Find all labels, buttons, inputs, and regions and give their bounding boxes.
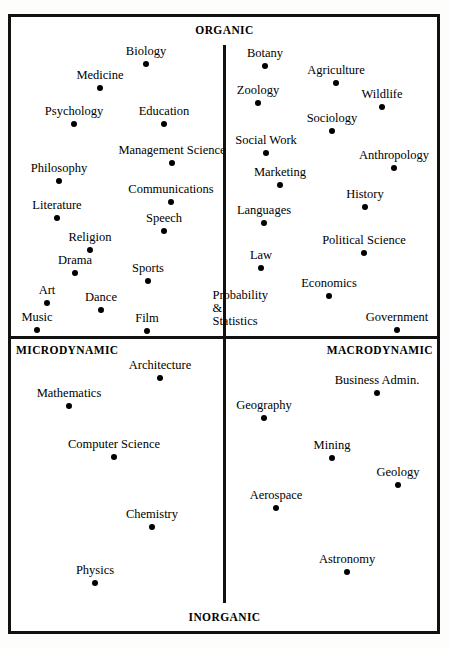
data-point-marker <box>98 307 104 313</box>
data-point-marker <box>145 278 151 284</box>
data-point-label: Law <box>250 249 272 262</box>
axis-pole-label-microdynamic: MICRODYNAMIC <box>16 344 119 356</box>
data-point-marker <box>44 300 50 306</box>
data-point-label: Agriculture <box>307 64 365 77</box>
data-point-label: Philosophy <box>31 162 87 175</box>
data-point-label: Astronomy <box>319 553 375 566</box>
data-point-label: Biology <box>126 45 166 58</box>
data-point-marker <box>262 63 268 69</box>
data-point-marker <box>333 80 339 86</box>
axis-pole-label-organic: ORGANIC <box>0 24 449 36</box>
data-point-marker <box>277 182 283 188</box>
data-point-marker <box>54 215 60 221</box>
data-point-label: Probability & Statistics <box>212 289 268 328</box>
data-point-marker <box>329 128 335 134</box>
data-point-marker <box>374 390 380 396</box>
data-point-label: Chemistry <box>126 508 178 521</box>
data-point-marker <box>255 100 261 106</box>
data-point-marker <box>326 293 332 299</box>
data-point-label: Architecture <box>129 359 191 372</box>
data-point-label: Medicine <box>76 69 123 82</box>
data-point-label: Languages <box>237 204 291 217</box>
data-point-label: Anthropology <box>359 149 429 162</box>
data-point-label: Physics <box>76 564 114 577</box>
data-point-marker <box>361 250 367 256</box>
data-point-label: Zoology <box>237 84 279 97</box>
data-point-label: Computer Science <box>68 438 160 451</box>
data-point-label: Social Work <box>235 134 297 147</box>
data-point-label: History <box>346 188 384 201</box>
data-point-marker <box>261 220 267 226</box>
data-point-label: Sociology <box>307 112 358 125</box>
data-point-label: Geology <box>376 466 419 479</box>
data-point-marker <box>143 61 149 67</box>
data-point-label: Wildlife <box>361 88 402 101</box>
data-point-marker <box>161 228 167 234</box>
data-point-marker <box>329 455 335 461</box>
data-point-label: Art <box>39 284 56 297</box>
data-point-marker <box>157 375 163 381</box>
data-point-marker <box>34 327 40 333</box>
data-point-marker <box>258 265 264 271</box>
data-point-marker <box>161 121 167 127</box>
data-point-marker <box>261 415 267 421</box>
data-point-marker <box>56 178 62 184</box>
data-point-marker <box>149 524 155 530</box>
data-point-label: Sports <box>132 262 164 275</box>
data-point-marker <box>379 104 385 110</box>
data-point-marker <box>144 328 150 334</box>
data-point-label: Music <box>21 311 52 324</box>
data-point-label: Religion <box>68 231 111 244</box>
data-point-marker <box>71 121 77 127</box>
data-point-label: Mathematics <box>37 387 102 400</box>
data-point-marker <box>391 165 397 171</box>
data-point-marker <box>111 454 117 460</box>
data-point-label: Speech <box>146 212 182 225</box>
data-point-marker <box>395 482 401 488</box>
data-point-label: Botany <box>247 47 283 60</box>
data-point-label: Mining <box>314 439 351 452</box>
discipline-quadrant-chart: ORGANIC INORGANIC MICRODYNAMIC MACRODYNA… <box>0 0 449 648</box>
axis-pole-label-macrodynamic: MACRODYNAMIC <box>327 344 433 356</box>
data-point-marker <box>168 199 174 205</box>
data-point-label: Economics <box>301 277 357 290</box>
data-point-label: Marketing <box>254 166 306 179</box>
data-point-marker <box>394 327 400 333</box>
data-point-label: Management Science <box>118 144 225 157</box>
data-point-marker <box>273 505 279 511</box>
data-point-label: Education <box>139 105 190 118</box>
data-point-marker <box>263 150 269 156</box>
data-point-label: Film <box>135 312 159 325</box>
data-point-marker <box>362 204 368 210</box>
data-point-label: Government <box>366 311 428 324</box>
data-point-marker <box>66 403 72 409</box>
data-point-marker <box>97 85 103 91</box>
data-point-label: Geography <box>236 399 292 412</box>
data-point-label: Political Science <box>322 234 406 247</box>
data-point-label: Drama <box>58 254 92 267</box>
axis-pole-label-inorganic: INORGANIC <box>0 611 449 623</box>
data-point-marker <box>92 580 98 586</box>
data-point-label: Dance <box>85 291 117 304</box>
data-point-marker <box>344 569 350 575</box>
data-point-label: Business Admin. <box>335 374 420 387</box>
data-point-label: Psychology <box>45 105 103 118</box>
data-point-label: Communications <box>128 183 213 196</box>
data-point-marker <box>72 270 78 276</box>
data-point-label: Literature <box>32 199 81 212</box>
horizontal-axis <box>10 336 438 339</box>
data-point-label: Aerospace <box>250 489 303 502</box>
data-point-marker <box>169 160 175 166</box>
